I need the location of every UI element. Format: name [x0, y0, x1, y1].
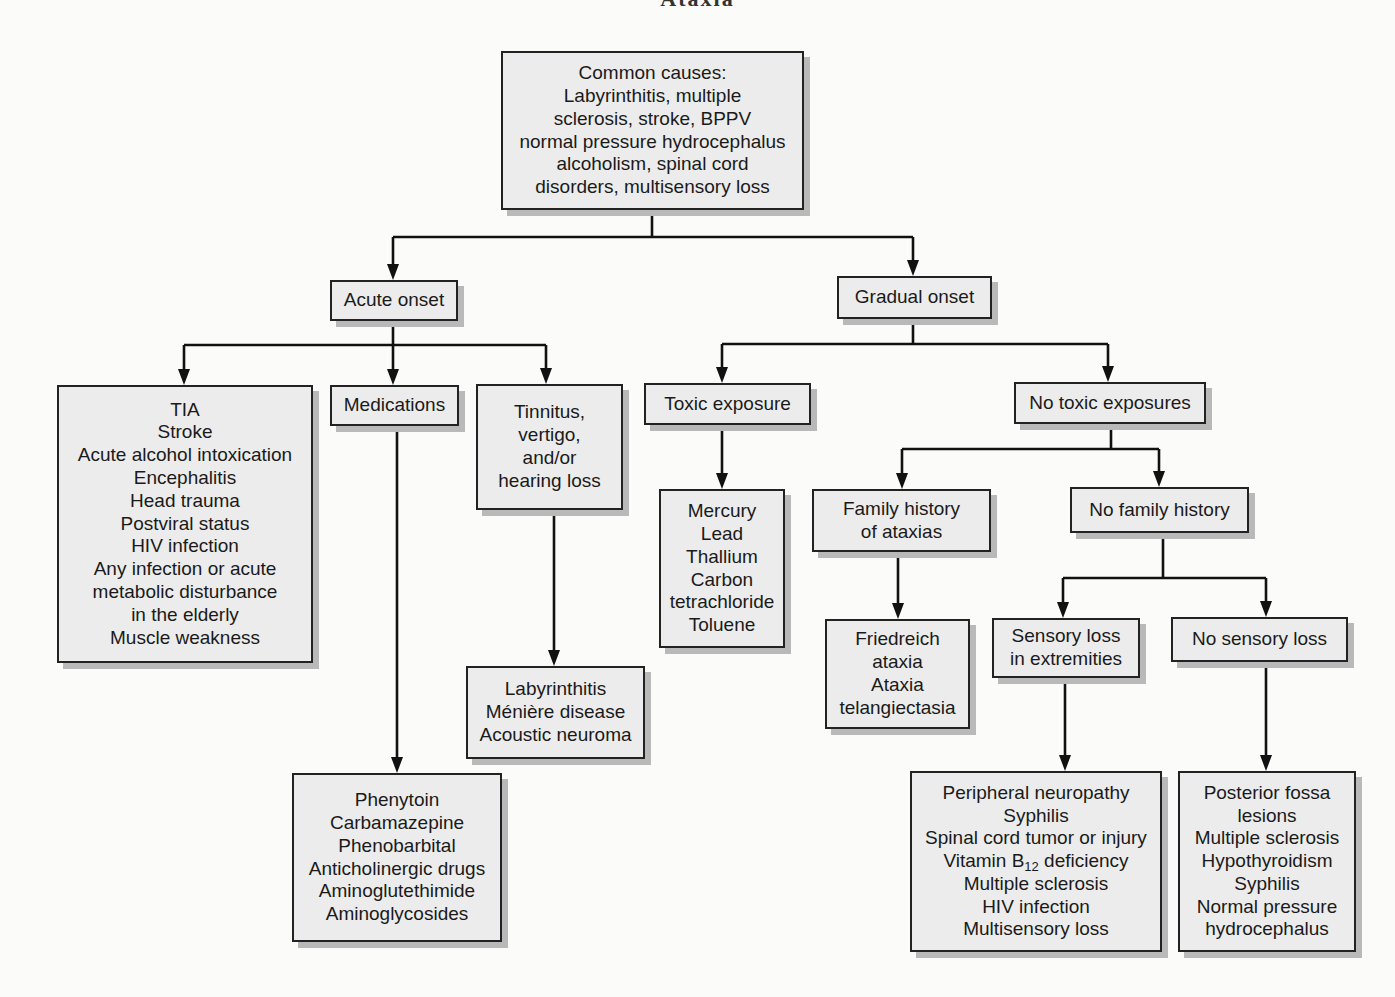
node-line: Mercury	[688, 500, 757, 523]
node-line: Lead	[701, 523, 743, 546]
root-common-causes-box: Common causes: Labyrinthitis, multiple s…	[501, 51, 804, 210]
no-toxic-exposures-box: No toxic exposures	[1014, 382, 1206, 424]
hereditary-ataxias-box: Friedreich ataxia Ataxia telangiectasia	[825, 619, 970, 729]
node-line: Family history	[843, 498, 960, 521]
node-line: HIV infection	[131, 535, 239, 558]
toxic-exposure-box: Toxic exposure	[644, 383, 811, 425]
b12-prefix: Vitamin B	[943, 850, 1024, 871]
node-line: hearing loss	[498, 470, 600, 493]
sensory-loss-box: Sensory loss in extremities	[992, 618, 1140, 678]
node-line: Any infection or acute	[94, 558, 277, 581]
node-line: Carbon	[691, 569, 753, 592]
node-line: Peripheral neuropathy	[943, 782, 1130, 805]
node-label: Gradual onset	[855, 286, 974, 309]
node-line: Common causes:	[579, 62, 727, 85]
no-family-history-box: No family history	[1070, 487, 1249, 533]
node-line: alcoholism, spinal cord	[556, 153, 748, 176]
node-line: and/or	[523, 447, 577, 470]
b12-tail: deficiency	[1039, 850, 1129, 871]
tinnitus-vertigo-box: Tinnitus, vertigo, and/or hearing loss	[476, 384, 623, 510]
node-line: HIV infection	[982, 896, 1090, 919]
no-sensory-loss-box: No sensory loss	[1171, 617, 1348, 662]
node-line: Muscle weakness	[110, 627, 260, 650]
node-line: Anticholinergic drugs	[309, 858, 485, 881]
node-label: No family history	[1089, 499, 1229, 522]
node-line: Aminoglutethimide	[319, 880, 475, 903]
node-line: telangiectasia	[839, 697, 955, 720]
node-line: metabolic disturbance	[93, 581, 278, 604]
node-line-b12: Vitamin B12 deficiency	[943, 850, 1128, 873]
node-line: Aminoglycosides	[326, 903, 469, 926]
no-sensory-causes-box: Posterior fossa lesions Multiple scleros…	[1178, 771, 1356, 952]
node-line: Labyrinthitis, multiple	[564, 85, 741, 108]
node-line: Friedreich	[855, 628, 939, 651]
node-line: of ataxias	[861, 521, 942, 544]
node-line: Tinnitus,	[514, 401, 585, 424]
node-label: No sensory loss	[1192, 628, 1327, 651]
node-line: lesions	[1237, 805, 1296, 828]
node-line: Acute alcohol intoxication	[78, 444, 292, 467]
node-line: Phenobarbital	[338, 835, 455, 858]
node-line: Spinal cord tumor or injury	[925, 827, 1147, 850]
node-line: Ménière disease	[486, 701, 625, 724]
node-line: disorders, multisensory loss	[535, 176, 769, 199]
node-line: Multiple sclerosis	[964, 873, 1109, 896]
node-line: sclerosis, stroke, BPPV	[554, 108, 751, 131]
node-line: normal pressure hydrocephalus	[519, 131, 785, 154]
gradual-onset-box: Gradual onset	[837, 276, 992, 319]
toxin-list-box: Mercury Lead Thallium Carbon tetrachlori…	[659, 489, 785, 648]
b12-subscript: 12	[1024, 859, 1038, 874]
node-line: TIA	[170, 399, 200, 422]
node-line: in extremities	[1010, 648, 1122, 671]
vestibular-causes-box: Labyrinthitis Ménière disease Acoustic n…	[466, 666, 645, 759]
node-line: Acoustic neuroma	[479, 724, 631, 747]
acute-causes-list-box: TIA Stroke Acute alcohol intoxication En…	[57, 385, 313, 663]
node-label: Toxic exposure	[664, 393, 791, 416]
node-line: Thallium	[686, 546, 758, 569]
node-line: Multiple sclerosis	[1195, 827, 1340, 850]
node-line: Syphilis	[1003, 805, 1068, 828]
node-line: Labyrinthitis	[505, 678, 606, 701]
node-line: Head trauma	[130, 490, 240, 513]
family-history-box: Family history of ataxias	[812, 489, 991, 552]
node-line: Ataxia	[871, 674, 924, 697]
node-line: in the elderly	[131, 604, 239, 627]
node-line: Carbamazepine	[330, 812, 464, 835]
node-line: Encephalitis	[134, 467, 236, 490]
node-line: Multisensory loss	[963, 918, 1109, 941]
node-line: vertigo,	[518, 424, 580, 447]
node-line: hydrocephalus	[1205, 918, 1329, 941]
node-line: Stroke	[158, 421, 213, 444]
node-line: Toluene	[689, 614, 756, 637]
node-label: Acute onset	[344, 289, 444, 312]
node-line: Syphilis	[1234, 873, 1299, 896]
node-line: Posterior fossa	[1204, 782, 1331, 805]
node-line: Phenytoin	[355, 789, 440, 812]
node-line: Hypothyroidism	[1202, 850, 1333, 873]
acute-onset-box: Acute onset	[330, 280, 458, 321]
node-line: ataxia	[872, 651, 923, 674]
node-line: Sensory loss	[1012, 625, 1121, 648]
node-line: Postviral status	[121, 513, 250, 536]
node-label: Medications	[344, 394, 445, 417]
medications-box: Medications	[330, 385, 459, 426]
node-line: Normal pressure	[1197, 896, 1337, 919]
node-line: tetrachloride	[670, 591, 775, 614]
medication-list-box: Phenytoin Carbamazepine Phenobarbital An…	[292, 773, 502, 942]
sensory-causes-box: Peripheral neuropathy Syphilis Spinal co…	[910, 771, 1162, 952]
node-label: No toxic exposures	[1029, 392, 1191, 415]
